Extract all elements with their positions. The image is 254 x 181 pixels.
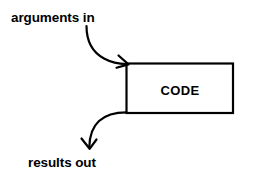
results-out-label: results out	[28, 155, 97, 170]
arguments-in-label: arguments in	[11, 10, 95, 25]
diagram-canvas: arguments in CODE results out	[0, 0, 254, 181]
diagram-svg: arguments in CODE results out	[0, 0, 254, 181]
code-box-label: CODE	[160, 83, 199, 98]
